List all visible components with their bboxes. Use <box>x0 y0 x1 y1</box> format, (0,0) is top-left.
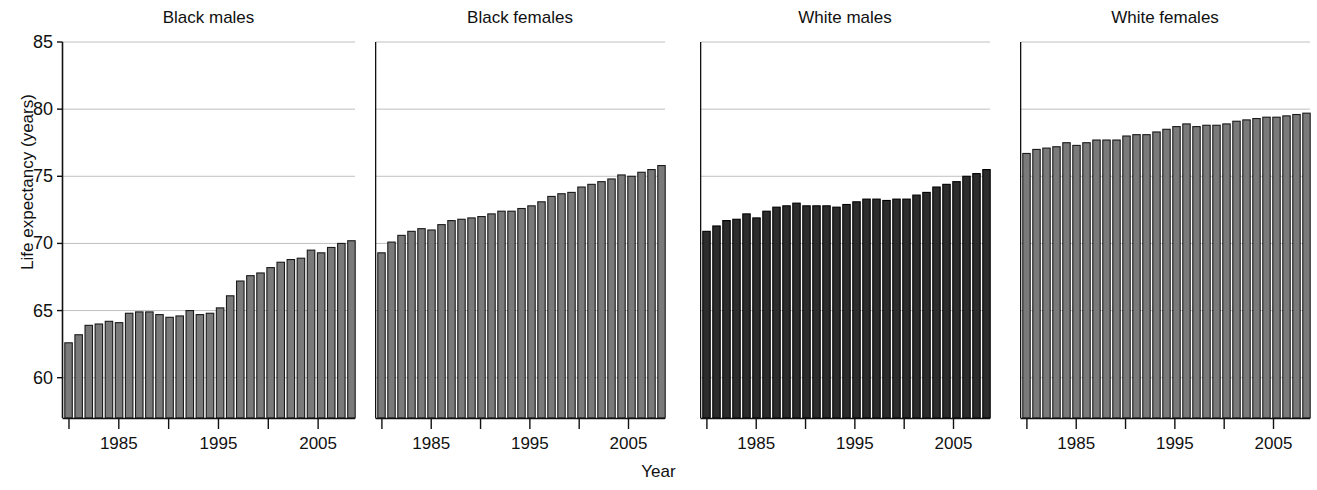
bar <box>703 231 710 418</box>
plot-area <box>1020 0 1312 490</box>
bar <box>247 276 254 418</box>
bar <box>943 184 950 418</box>
bar <box>1153 132 1160 418</box>
bar <box>297 258 304 418</box>
bar <box>753 218 760 418</box>
bar <box>498 211 505 418</box>
panel-black-males: Black males198519952005 <box>62 0 355 490</box>
bar <box>85 325 92 418</box>
bar <box>348 241 355 418</box>
bar <box>95 324 102 418</box>
bar <box>287 260 294 418</box>
x-axis-label: Year <box>0 462 1317 482</box>
bar <box>618 175 625 418</box>
x-tick-label: 1995 <box>836 434 874 454</box>
bar <box>538 202 545 418</box>
bar <box>328 247 335 418</box>
bar <box>408 231 415 418</box>
bar <box>658 166 665 418</box>
bar <box>1163 129 1170 418</box>
bar <box>237 281 244 418</box>
bar <box>1143 135 1150 418</box>
y-tick-label: 80 <box>33 99 53 120</box>
bar <box>963 176 970 418</box>
bar <box>648 170 655 418</box>
x-tick-label: 1995 <box>1156 434 1194 454</box>
bar <box>438 225 445 418</box>
bar <box>317 253 324 418</box>
bar <box>823 206 830 418</box>
bar <box>216 308 223 418</box>
x-tick-label: 1995 <box>511 434 549 454</box>
bar <box>277 262 284 418</box>
bar <box>136 312 143 418</box>
x-tick-label: 2005 <box>610 434 648 454</box>
bar <box>1053 147 1060 418</box>
x-tick-label: 1985 <box>1057 434 1095 454</box>
bar <box>206 313 213 418</box>
bar <box>166 317 173 418</box>
bar <box>1253 119 1260 418</box>
bar <box>843 204 850 418</box>
bar <box>743 214 750 418</box>
panel-black-females: Black females198519952005 <box>375 0 665 490</box>
bar <box>953 182 960 418</box>
bar <box>1023 153 1030 418</box>
bar <box>783 206 790 418</box>
bar <box>713 226 720 418</box>
bar <box>558 194 565 418</box>
bar <box>793 203 800 418</box>
bar <box>773 207 780 418</box>
bar <box>628 176 635 418</box>
x-tick-label: 1985 <box>737 434 775 454</box>
bar <box>378 253 385 418</box>
x-tick-label: 1985 <box>412 434 450 454</box>
bar <box>588 184 595 418</box>
bar <box>733 219 740 418</box>
bar <box>1243 120 1250 418</box>
bar <box>257 273 264 418</box>
bar <box>478 217 485 418</box>
bar <box>468 218 475 418</box>
bar <box>508 211 515 418</box>
bar <box>1133 135 1140 418</box>
bar <box>893 199 900 418</box>
bar <box>518 209 525 418</box>
life-expectancy-figure: Life expectancy (years) Black males19851… <box>0 0 1317 490</box>
bar <box>1033 149 1040 418</box>
bar <box>488 214 495 418</box>
bar <box>226 296 233 418</box>
y-tick-label: 60 <box>33 367 53 388</box>
bar <box>388 242 395 418</box>
bar <box>75 335 82 418</box>
y-tick-label: 85 <box>33 32 53 53</box>
bar <box>608 179 615 418</box>
bar <box>983 170 990 418</box>
bar <box>338 243 345 418</box>
bar <box>307 250 314 418</box>
bar <box>1093 140 1100 418</box>
x-tick-label: 2005 <box>299 434 337 454</box>
bar <box>578 187 585 418</box>
bar <box>105 321 112 418</box>
bar <box>1123 136 1130 418</box>
bar <box>1063 143 1070 418</box>
bar <box>458 219 465 418</box>
bar <box>125 313 132 418</box>
bar <box>196 315 203 418</box>
bar <box>568 192 575 418</box>
y-tick-label: 75 <box>33 166 53 187</box>
panel-white-females: White females198519952005 <box>1020 0 1310 490</box>
bar <box>398 235 405 418</box>
bar <box>833 207 840 418</box>
bar <box>1293 115 1300 418</box>
bar <box>638 172 645 418</box>
bar <box>598 182 605 418</box>
bar <box>1213 125 1220 418</box>
bar <box>65 343 72 418</box>
x-tick-label: 2005 <box>1255 434 1293 454</box>
bar <box>1183 124 1190 418</box>
x-tick-label: 1995 <box>200 434 238 454</box>
bar <box>1273 117 1280 418</box>
bar <box>1223 124 1230 418</box>
